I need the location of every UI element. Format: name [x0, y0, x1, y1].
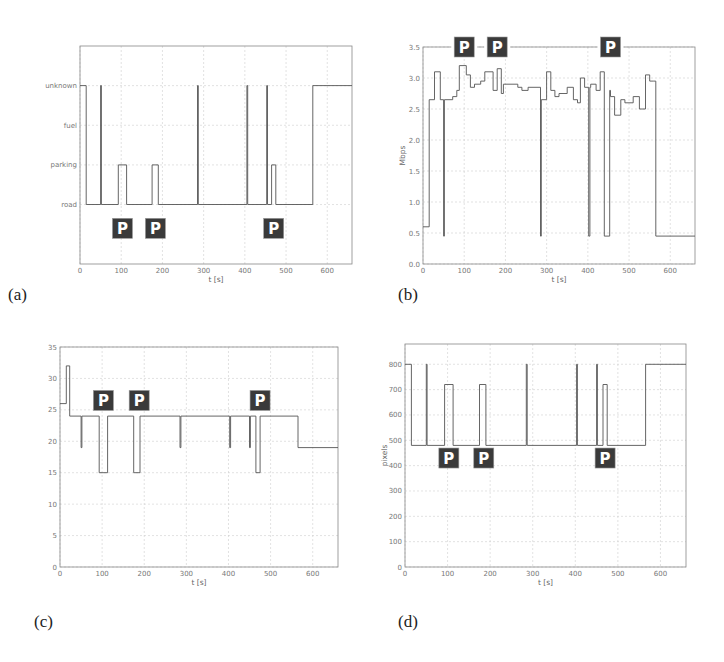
y-tick-label: 5 [53, 532, 57, 540]
svg-text:P: P [268, 220, 279, 238]
axes-frame [423, 47, 695, 264]
y-tick-label: 800 [389, 361, 402, 369]
y-axis-label: pixels [380, 445, 389, 467]
chart-d: 0100200300400500600010020030040050060070… [380, 344, 686, 587]
x-tick-label: 300 [180, 570, 193, 578]
parking-icon: P [93, 390, 113, 410]
x-tick-label: 500 [264, 570, 277, 578]
panel-label-b: (b) [398, 285, 418, 305]
chart-b: 01002003004005006000.00.51.01.52.02.53.0… [398, 35, 695, 284]
axes-frame [60, 347, 338, 567]
x-axis-label: t [s] [208, 275, 223, 284]
y-tick-label: 300 [389, 487, 402, 495]
x-tick-label: 300 [540, 267, 553, 275]
parking-icon: P [595, 448, 615, 468]
x-tick-label: 500 [622, 267, 635, 275]
svg-text:P: P [492, 39, 503, 57]
parking-icon: P [112, 218, 132, 238]
parking-icon: P [598, 35, 624, 59]
series-line [60, 366, 338, 473]
x-tick-label: 300 [197, 267, 210, 275]
x-tick-label: 400 [238, 267, 251, 275]
y-axis-label: Mbps [398, 145, 407, 165]
y-tick-label: 100 [389, 538, 402, 546]
y-tick-label: 0.5 [409, 230, 420, 238]
series-line [80, 86, 352, 205]
parking-icon: P [250, 390, 270, 410]
x-tick-label: 600 [321, 267, 334, 275]
x-tick-label: 500 [279, 267, 292, 275]
x-axis-label: t [s] [551, 275, 566, 284]
x-tick-label: 400 [569, 570, 582, 578]
parking-icon: P [484, 35, 510, 59]
y-tick-label: 500 [389, 437, 402, 445]
y-tick-label: 0 [53, 564, 57, 572]
y-tick-label: 2.5 [409, 106, 420, 114]
x-tick-label: 600 [654, 570, 667, 578]
x-tick-label: 200 [499, 267, 512, 275]
y-tick-label: parking [51, 161, 78, 169]
y-tick-label: 400 [389, 462, 402, 470]
parking-icon: P [474, 448, 494, 468]
series-line [423, 66, 695, 237]
y-tick-label: 1.5 [409, 168, 420, 176]
panel-label-d: (d) [398, 612, 418, 632]
panel-label-a: (a) [8, 285, 27, 305]
x-tick-label: 400 [581, 267, 594, 275]
x-tick-label: 100 [458, 267, 471, 275]
x-tick-label: 400 [222, 570, 235, 578]
x-tick-label: 100 [115, 267, 128, 275]
x-tick-label: 100 [441, 570, 454, 578]
y-tick-label: 30 [48, 375, 57, 383]
x-tick-label: 0 [58, 570, 62, 578]
x-tick-label: 100 [95, 570, 108, 578]
svg-text:P: P [150, 220, 161, 238]
x-tick-label: 600 [664, 267, 677, 275]
y-tick-label: 20 [48, 438, 57, 446]
grid [60, 347, 338, 567]
svg-text:P: P [600, 450, 611, 468]
x-tick-label: 0 [78, 267, 82, 275]
parking-icon: P [145, 218, 165, 238]
svg-text:P: P [134, 392, 145, 410]
y-tick-label: 3.0 [409, 75, 420, 83]
svg-text:P: P [443, 450, 454, 468]
y-tick-label: road [61, 201, 77, 209]
y-tick-label: 200 [389, 513, 402, 521]
svg-text:P: P [98, 392, 109, 410]
y-tick-label: 700 [389, 386, 402, 394]
y-tick-label: 10 [48, 501, 57, 509]
svg-text:P: P [459, 39, 470, 57]
y-tick-label: 600 [389, 411, 402, 419]
y-tick-label: 0.0 [409, 261, 420, 269]
x-tick-label: 0 [403, 570, 407, 578]
x-tick-label: 500 [611, 570, 624, 578]
y-tick-label: 2.0 [409, 137, 420, 145]
y-tick-label: 3.5 [409, 44, 420, 52]
y-tick-label: 0 [398, 564, 402, 572]
x-tick-label: 0 [421, 267, 425, 275]
panel-label-c: (c) [34, 612, 53, 632]
chart-c: 010020030040050060005101520253035t [s]PP… [48, 344, 338, 588]
y-tick-label: unknown [45, 82, 77, 90]
x-tick-label: 200 [138, 570, 151, 578]
y-tick-label: fuel [64, 122, 77, 130]
svg-text:P: P [255, 392, 266, 410]
svg-text:P: P [117, 220, 128, 238]
x-axis-label: t [s] [538, 578, 553, 587]
y-tick-label: 35 [48, 344, 57, 352]
parking-icon: P [129, 390, 149, 410]
parking-icon: P [451, 35, 477, 59]
x-tick-label: 200 [483, 570, 496, 578]
parking-icon: P [439, 448, 459, 468]
y-tick-label: 25 [48, 406, 57, 414]
svg-text:P: P [605, 39, 616, 57]
x-tick-label: 600 [306, 570, 319, 578]
figure-canvas: 0100200300400500600roadparkingfuelunknow… [0, 0, 724, 662]
series-line [405, 364, 686, 445]
grid [423, 47, 695, 264]
x-tick-label: 300 [526, 570, 539, 578]
y-tick-label: 1.0 [409, 199, 420, 207]
svg-text:P: P [478, 450, 489, 468]
x-tick-label: 200 [156, 267, 169, 275]
